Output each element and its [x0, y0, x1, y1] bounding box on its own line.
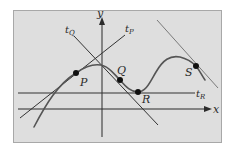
- point-label-Q: Q: [117, 64, 126, 77]
- tangent-label-tR-sub: R: [199, 93, 206, 101]
- y-axis-label: y: [96, 7, 104, 20]
- point-P: [73, 70, 79, 76]
- tangent-label-tQ-sub: Q: [69, 29, 75, 37]
- point-label-S: S: [185, 66, 193, 79]
- x-axis-label: x: [213, 103, 220, 116]
- point-label-P: P: [79, 76, 88, 89]
- point-label-R: R: [141, 93, 150, 106]
- point-S: [193, 63, 199, 69]
- point-R: [135, 89, 141, 95]
- tangent-lines-diagram: x y tR tP tQ: [0, 0, 231, 156]
- point-Q: [117, 77, 123, 83]
- tangent-label-tP-sub: P: [128, 28, 134, 36]
